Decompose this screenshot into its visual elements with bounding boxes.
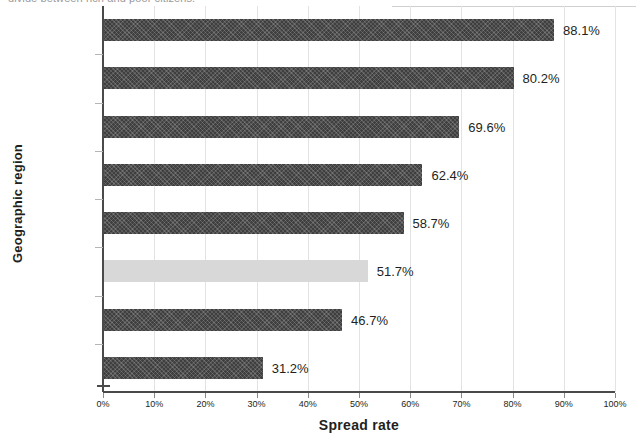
origin-tick-mark: [97, 385, 110, 387]
gridline-70: [461, 6, 462, 392]
x-tick-60: [410, 393, 411, 398]
gridline-20: [205, 6, 206, 392]
x-tick-30: [257, 393, 258, 398]
x-tick-20: [205, 393, 206, 398]
bar-row[interactable]: 58.7%: [103, 212, 615, 234]
y-tick-mark: [95, 151, 103, 152]
bar-asia[interactable]: [103, 309, 342, 331]
x-tick-70: [461, 393, 462, 398]
bar-row[interactable]: 88.1%: [103, 19, 615, 41]
gridline-10: [154, 6, 155, 392]
bar-australia-oceania[interactable]: [103, 116, 459, 138]
bar-value-label: 80.2%: [523, 71, 560, 86]
x-tick-label-60: 60%: [401, 399, 419, 409]
bar-row[interactable]: 51.7%: [103, 260, 615, 282]
y-tick-mark: [95, 199, 103, 200]
y-tick-mark: [95, 296, 103, 297]
bar-world-average[interactable]: [103, 260, 368, 282]
y-tick-mark: [95, 247, 103, 248]
x-tick-label-90: 90%: [555, 399, 573, 409]
x-tick-label-70: 70%: [452, 399, 470, 409]
x-tick-label-80: 80%: [504, 399, 522, 409]
bar-row[interactable]: 46.7%: [103, 309, 615, 331]
bar-row[interactable]: 31.2%: [103, 357, 615, 379]
x-tick-label-10: 10%: [145, 399, 163, 409]
gridline-50: [359, 6, 360, 392]
bar-middle-east[interactable]: [103, 212, 404, 234]
x-tick-40: [308, 393, 309, 398]
gridline-40: [308, 6, 309, 392]
x-axis-title: Spread rate: [103, 417, 615, 433]
x-tick-0: [103, 393, 104, 398]
y-tick-mark: [95, 344, 103, 345]
bar-value-label: 62.4%: [431, 167, 468, 182]
bar-value-label: 69.6%: [468, 119, 505, 134]
x-tick-label-30: 30%: [248, 399, 266, 409]
bar-europe[interactable]: [103, 67, 514, 89]
x-tick-80: [513, 393, 514, 398]
y-tick-mark: [95, 54, 103, 55]
x-tick-100: [615, 393, 616, 398]
bar-value-label: 31.2%: [272, 360, 309, 375]
y-tick-mark: [95, 103, 103, 104]
bar-north-america[interactable]: [103, 19, 554, 41]
x-tick-label-50: 50%: [350, 399, 368, 409]
x-tick-label-0: 0%: [96, 399, 109, 409]
x-tick-label-100: 100%: [603, 399, 626, 409]
x-tick-50: [359, 393, 360, 398]
x-tick-10: [154, 393, 155, 398]
gridline-100: [615, 6, 616, 392]
x-tick-label-20: 20%: [196, 399, 214, 409]
gridline-60: [410, 6, 411, 392]
gridline-80: [513, 6, 514, 392]
plot-area: 88.1%80.2%69.6%62.4%58.7%51.7%46.7%31.2%: [103, 6, 615, 392]
x-tick-label-40: 40%: [299, 399, 317, 409]
bar-chart-figure: Geographic region 88.1%80.2%69.6%62.4%58…: [0, 0, 636, 441]
bar-africa[interactable]: [103, 357, 263, 379]
bar-latin-america-caribbean[interactable]: [103, 164, 422, 186]
bar-value-label: 46.7%: [351, 312, 388, 327]
bar-value-label: 88.1%: [563, 23, 600, 38]
gridline-90: [564, 6, 565, 392]
bar-value-label: 51.7%: [377, 264, 414, 279]
y-axis-title: Geographic region: [10, 124, 25, 284]
gridline-30: [257, 6, 258, 392]
bar-row[interactable]: 80.2%: [103, 67, 615, 89]
bar-row[interactable]: 69.6%: [103, 116, 615, 138]
x-tick-90: [564, 393, 565, 398]
bar-row[interactable]: 62.4%: [103, 164, 615, 186]
bar-value-label: 58.7%: [413, 216, 450, 231]
